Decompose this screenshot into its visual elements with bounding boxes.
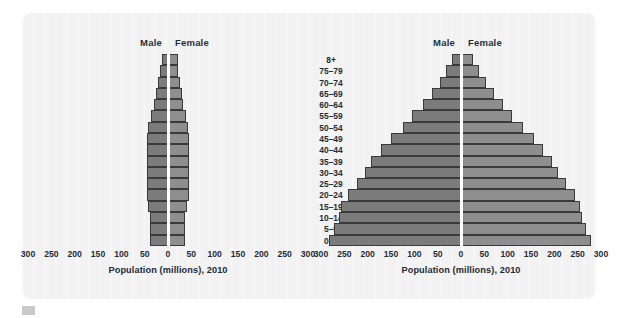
bar-female (461, 88, 494, 99)
x-tick-label: 300 (21, 249, 35, 259)
x-tick-label: 50 (433, 249, 443, 259)
zero-axis-left (167, 54, 170, 246)
x-tick-label: 100 (500, 249, 514, 259)
bar-male (147, 156, 168, 167)
bar-male (365, 167, 461, 178)
bar-male (150, 223, 168, 234)
bar-male (150, 212, 168, 223)
bar-female (168, 77, 180, 88)
bar-male (423, 99, 461, 110)
bar-female (461, 167, 558, 178)
bar-male (334, 223, 461, 234)
x-tick-label: 0 (459, 249, 464, 259)
bar-female (461, 235, 591, 246)
x-axis-label-right: Population (millions), 2010 (321, 265, 601, 275)
bar-female (461, 77, 486, 88)
bar-male (150, 235, 168, 246)
bar-male (440, 77, 461, 88)
legend-label-female-right: Female (468, 37, 502, 48)
bar-male (147, 167, 168, 178)
bar-female (461, 99, 503, 110)
x-tick-label: 150 (384, 249, 398, 259)
bar-female (168, 212, 185, 223)
bar-male (148, 122, 168, 133)
x-tick-label: 50 (480, 249, 490, 259)
x-tick-label: 250 (277, 249, 291, 259)
bar-male (371, 156, 461, 167)
bar-male (147, 144, 168, 155)
chart-right-population-pyramid: Male Female 3002502001501005005010015020… (321, 37, 601, 292)
bar-female (168, 235, 185, 246)
plot-area-right (321, 54, 601, 246)
bar-female (461, 189, 575, 200)
x-tick-label: 200 (254, 249, 268, 259)
bar-male (348, 189, 461, 200)
x-tick-label: 200 (547, 249, 561, 259)
bar-male (147, 178, 168, 189)
bar-male (147, 133, 168, 144)
x-tick-label: 100 (207, 249, 221, 259)
x-tick-label: 250 (570, 249, 584, 259)
x-tick-label: 100 (407, 249, 421, 259)
bar-male (357, 178, 461, 189)
bar-female (168, 223, 185, 234)
figure-page: Male Female 3002502001501005005010015020… (0, 0, 618, 318)
bar-male (381, 144, 461, 155)
bar-female (461, 223, 586, 234)
x-tick-label: 50 (140, 249, 150, 259)
bar-female (461, 212, 582, 223)
bar-male (151, 110, 168, 121)
bar-female (168, 54, 178, 65)
bar-female (461, 201, 580, 212)
bar-male (341, 201, 461, 212)
bar-female (461, 144, 543, 155)
x-tick-label: 0 (166, 249, 171, 259)
bar-female (461, 156, 552, 167)
bar-male (329, 235, 461, 246)
bar-male (147, 189, 168, 200)
x-tick-label: 300 (594, 249, 608, 259)
bar-female (168, 178, 189, 189)
bar-female (168, 189, 189, 200)
bar-female (461, 54, 473, 65)
bar-female (168, 156, 189, 167)
figure-panel: Male Female 3002502001501005005010015020… (22, 13, 596, 299)
bar-female (461, 133, 534, 144)
x-axis-ticks-right: 30025020015010050050100150200250300 (321, 249, 601, 262)
bar-female (168, 167, 189, 178)
bar-female (168, 201, 187, 212)
bar-female (168, 144, 189, 155)
x-tick-label: 250 (337, 249, 351, 259)
bar-male (412, 110, 461, 121)
bar-male (148, 201, 168, 212)
x-tick-label: 250 (44, 249, 58, 259)
sex-legend-left: Male Female (28, 37, 308, 53)
x-tick-label: 150 (524, 249, 538, 259)
x-tick-label: 50 (187, 249, 197, 259)
bar-female (461, 122, 523, 133)
bar-female (168, 110, 186, 121)
chart-left-population-pyramid: Male Female 3002502001501005005010015020… (28, 37, 308, 292)
page-corner-mark (22, 306, 35, 315)
bar-female (168, 133, 189, 144)
bar-female (168, 122, 188, 133)
x-tick-label: 150 (91, 249, 105, 259)
legend-label-male-right: Male (433, 37, 455, 48)
bar-male (391, 133, 461, 144)
bar-male (339, 212, 461, 223)
x-tick-label: 100 (114, 249, 128, 259)
sex-legend-right: Male Female (321, 37, 601, 53)
x-tick-label: 150 (231, 249, 245, 259)
plot-area-left (28, 54, 308, 246)
bar-female (461, 178, 566, 189)
bar-female (461, 110, 512, 121)
bar-female (461, 65, 479, 76)
bar-female (168, 65, 178, 76)
x-tick-label: 200 (360, 249, 374, 259)
x-tick-label: 300 (314, 249, 328, 259)
bar-male (432, 88, 461, 99)
bar-female (168, 88, 182, 99)
x-tick-label: 200 (67, 249, 81, 259)
x-axis-ticks-left: 30025020015010050050100150200250300 (28, 249, 308, 262)
bar-female (168, 99, 183, 110)
